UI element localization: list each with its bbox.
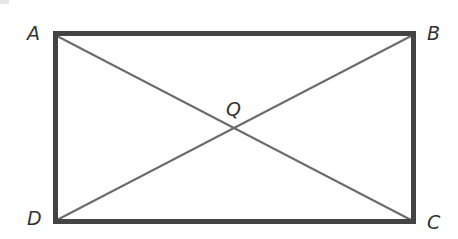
vertex-label-b: B <box>427 24 440 43</box>
rectangle-diagram: A B C D Q <box>0 0 458 239</box>
intersection-label-q: Q <box>226 100 241 119</box>
vertex-label-c: C <box>427 213 440 232</box>
vertex-label-d: D <box>27 209 42 228</box>
vertex-label-a: A <box>27 24 40 43</box>
